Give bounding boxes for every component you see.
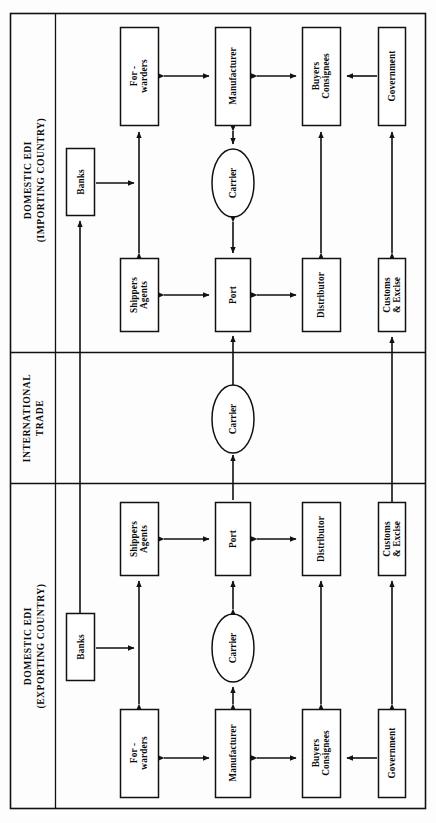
node-exp-shippers	[121, 503, 159, 576]
node-imp-banks	[67, 149, 95, 216]
node-exp-banks	[67, 614, 95, 681]
node-imp-port	[216, 259, 251, 332]
node-imp-forwarders	[121, 28, 159, 126]
node-exp-distributor	[303, 503, 341, 576]
node-intl-carrier	[212, 385, 254, 453]
importing-nodes	[67, 28, 406, 332]
node-exp-buyers	[303, 710, 341, 798]
node-imp-buyers	[303, 28, 341, 126]
node-imp-government	[379, 28, 406, 126]
diagram-canvas	[0, 0, 436, 823]
node-imp-carrier	[212, 149, 254, 217]
node-exp-forwarders	[121, 710, 159, 798]
node-imp-customs	[379, 259, 406, 332]
node-exp-government	[379, 710, 406, 798]
node-imp-distributor	[303, 259, 341, 332]
exporting-nodes	[67, 503, 406, 798]
international-nodes	[212, 385, 254, 453]
node-exp-carrier	[212, 614, 254, 682]
node-exp-port	[216, 503, 251, 576]
node-exp-manufacturer	[216, 710, 251, 798]
node-imp-manufacturer	[216, 28, 251, 126]
node-exp-customs	[379, 503, 406, 576]
node-imp-shippers	[121, 259, 159, 332]
edi-diagram: DOMESTIC EDI (IMPORTING COUNTRY) INTERNA…	[0, 0, 436, 823]
